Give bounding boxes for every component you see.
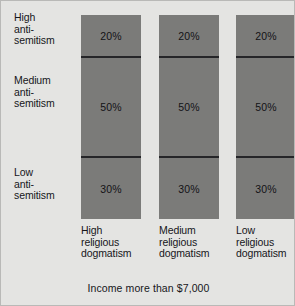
bar-segment: 50% [236, 56, 295, 158]
segment-value: 50% [255, 101, 277, 113]
chart-caption: Income more than $7,000 [1, 282, 295, 294]
stack-label-line: High [14, 12, 76, 24]
stack-label-line: semitism [14, 98, 76, 110]
x-axis-label-line: dogmatism [159, 248, 231, 260]
stack-label-line: semitism [14, 35, 76, 47]
stacked-bar: 20% 50% 30% [159, 15, 219, 219]
bar-segment: 30% [236, 158, 295, 219]
stack-label-low-antisemitism: Low anti- semitism [14, 167, 76, 202]
bar-segment: 20% [236, 15, 295, 56]
x-axis-label-line: Medium [159, 225, 231, 237]
x-axis-label-line: High [81, 225, 153, 237]
x-axis-label-high-dogmatism: High religious dogmatism [81, 225, 153, 260]
segment-value: 30% [255, 183, 277, 195]
stack-label-medium-antisemitism: Medium anti- semitism [14, 75, 76, 110]
segment-value: 50% [178, 101, 200, 113]
stack-label-line: Medium [14, 75, 76, 87]
segment-value: 30% [100, 183, 122, 195]
segment-value: 20% [178, 30, 200, 42]
x-axis-label-line: Low [236, 225, 295, 237]
bar-segment: 50% [159, 56, 219, 158]
segment-value: 30% [178, 183, 200, 195]
segment-value: 20% [100, 30, 122, 42]
x-axis-label-medium-dogmatism: Medium religious dogmatism [159, 225, 231, 260]
chart-figure: High anti- semitism Medium anti- semitis… [0, 0, 295, 306]
bar-segment: 20% [81, 15, 141, 56]
bar-segment: 20% [159, 15, 219, 56]
x-axis-label-line: dogmatism [236, 248, 295, 260]
x-axis-label-low-dogmatism: Low religious dogmatism [236, 225, 295, 260]
segment-value: 20% [255, 30, 277, 42]
stacked-bar: 20% 50% 30% [81, 15, 141, 219]
bar-segment: 50% [81, 56, 141, 158]
stacked-bar: 20% 50% 30% [236, 15, 295, 219]
segment-value: 50% [100, 101, 122, 113]
bar-segment: 30% [159, 158, 219, 219]
x-axis-label-line: dogmatism [81, 248, 153, 260]
bar-segment: 30% [81, 158, 141, 219]
stack-label-line: Low [14, 167, 76, 179]
stack-label-high-antisemitism: High anti- semitism [14, 12, 76, 47]
stack-label-line: semitism [14, 190, 76, 202]
